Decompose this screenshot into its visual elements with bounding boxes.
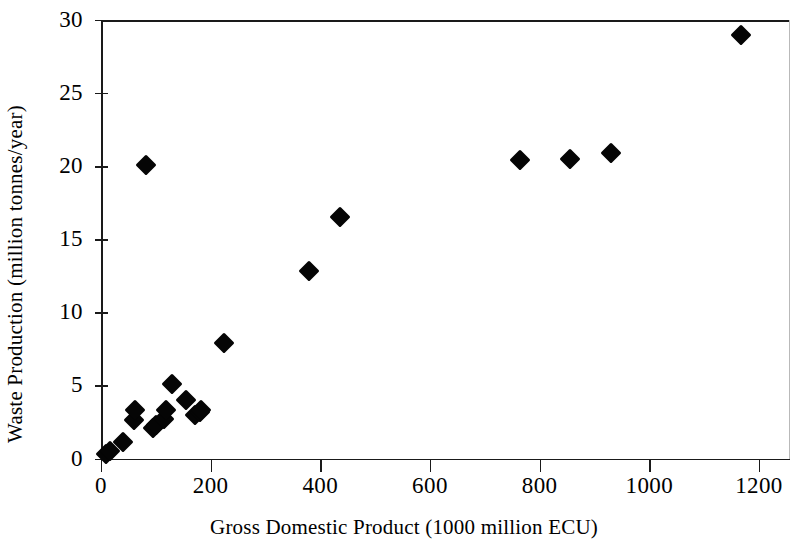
data-point xyxy=(329,207,350,228)
y-tick-label-25: 25 xyxy=(0,81,83,104)
data-point xyxy=(731,24,752,45)
x-tick-400 xyxy=(320,459,321,472)
x-tick-label-200: 200 xyxy=(151,474,271,497)
x-tick-label-800: 800 xyxy=(480,474,600,497)
x-tick-1000 xyxy=(649,459,650,472)
data-point xyxy=(162,373,183,394)
x-axis-line xyxy=(101,459,790,461)
y-tick-label-20: 20 xyxy=(0,154,83,177)
y-tick-label-5: 5 xyxy=(0,373,83,396)
x-tick-200 xyxy=(211,459,212,472)
plot-frame-top xyxy=(101,20,790,22)
data-point xyxy=(510,150,531,171)
y-tick-label-15: 15 xyxy=(0,227,83,250)
y-tick-label-0: 0 xyxy=(0,447,83,470)
y-tick-15 xyxy=(95,239,108,240)
data-point xyxy=(559,148,580,169)
plot-frame-right xyxy=(789,20,790,460)
data-point xyxy=(600,142,621,163)
y-tick-20 xyxy=(95,166,108,167)
y-tick-label-10: 10 xyxy=(0,300,83,323)
y-tick-25 xyxy=(95,93,108,94)
data-point xyxy=(135,154,156,175)
x-tick-label-600: 600 xyxy=(370,474,490,497)
x-tick-600 xyxy=(430,459,431,472)
x-tick-label-0: 0 xyxy=(41,474,161,497)
y-tick-30 xyxy=(95,20,108,21)
x-tick-label-1200: 1200 xyxy=(699,474,808,497)
scatter-chart-figure: Waste Production (million tonnes/year) G… xyxy=(0,0,808,548)
y-tick-10 xyxy=(95,312,108,313)
data-point xyxy=(214,332,235,353)
data-point xyxy=(299,261,320,282)
plot-area xyxy=(101,20,790,460)
y-tick-label-30: 30 xyxy=(0,8,83,31)
x-tick-label-1000: 1000 xyxy=(589,474,709,497)
x-axis-title: Gross Domestic Product (1000 million ECU… xyxy=(0,515,808,540)
y-tick-5 xyxy=(95,385,108,386)
x-tick-800 xyxy=(540,459,541,472)
x-tick-1200 xyxy=(759,459,760,472)
x-tick-label-400: 400 xyxy=(260,474,380,497)
